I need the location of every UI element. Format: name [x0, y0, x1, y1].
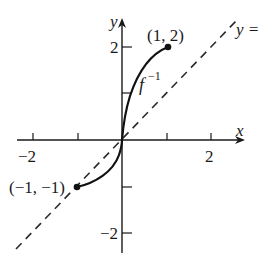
graph-canvas: x y −2 2 2 −2 (1, 2) (−1, −1) f −1 y =: [0, 0, 260, 265]
curve-label-superscript: −1: [148, 69, 161, 83]
y-axis-label: y: [108, 12, 118, 31]
x-axis-label: x: [235, 121, 244, 140]
point-label-minus1-minus1: (−1, −1): [9, 178, 65, 197]
reference-line-y-equals-x: [16, 21, 236, 249]
endpoint-minus1-minus1: [74, 184, 81, 191]
curve-label-f: f: [139, 75, 147, 95]
y-tick-label-2: 2: [110, 38, 119, 57]
x-tick-label-neg2: −2: [18, 147, 36, 166]
reference-line-label-text: y =: [234, 20, 259, 39]
x-tick-label-2: 2: [205, 147, 214, 166]
reference-line-label: y =: [234, 20, 259, 39]
y-tick-label-neg2: −2: [100, 224, 118, 243]
point-label-1-2: (1, 2): [147, 26, 184, 45]
